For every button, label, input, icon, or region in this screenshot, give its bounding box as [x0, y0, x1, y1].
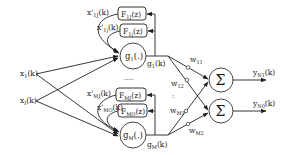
- summer-node-2: Σ: [209, 99, 233, 123]
- summer-node-1: Σ: [209, 68, 233, 92]
- filter-F1j: F1j(z): [120, 24, 147, 38]
- gM-output-label: gM(k): [147, 140, 167, 150]
- g1-output-wiring: [146, 14, 168, 56]
- input-xI: xI(k): [20, 96, 37, 106]
- feedback-label-xMO: x'MO(k): [97, 103, 123, 113]
- neural-network-diagram: x1(k) xI(k) g1(.) F1J(z) F1j(z) x'1J(k) …: [0, 0, 287, 155]
- g1-output-label: g1(k): [147, 59, 165, 69]
- svg-text:gM(.): gM(.): [123, 130, 143, 141]
- svg-text:g1(k): g1(k): [147, 59, 165, 69]
- feedback-label-x1J: x'1J(k): [87, 8, 109, 19]
- weights-ellipsis: :: [172, 91, 175, 100]
- output-yN0: yN0(k): [233, 99, 275, 111]
- svg-text:x1(k): x1(k): [20, 69, 38, 79]
- weight-wM1: wM1: [170, 106, 188, 116]
- svg-text:yN0(k): yN0(k): [252, 99, 275, 109]
- svg-text:wM1: wM1: [170, 106, 185, 116]
- weight-w12: w12: [171, 78, 189, 89]
- hidden-node-gM: gM(.): [120, 122, 146, 148]
- svg-text:w11: w11: [190, 55, 203, 65]
- feedback-curves-bottom: [98, 95, 119, 132]
- weight-w11: w11: [186, 55, 203, 69]
- svg-text:Σ: Σ: [216, 103, 226, 119]
- svg-text:gM(k): gM(k): [147, 140, 167, 150]
- svg-text:g1(.): g1(.): [125, 51, 143, 62]
- filter-F1J: F1J(z): [118, 7, 146, 21]
- filter-FMJ: FMJ(z): [116, 88, 146, 102]
- hidden-node-g1: g1(.): [120, 43, 146, 69]
- output-yN1: yN1(k): [233, 68, 275, 80]
- feedback-curves-top: [98, 14, 120, 53]
- weight-wM2: wM2: [186, 122, 204, 136]
- svg-text:Σ: Σ: [216, 72, 226, 88]
- svg-text:yN1(k): yN1(k): [252, 68, 275, 78]
- gM-output-wiring: [146, 95, 168, 135]
- input-x1: x1(k): [20, 69, 38, 79]
- svg-text:x'MO(k): x'MO(k): [97, 103, 123, 113]
- hidden-nodes-ellipsis: ....: [124, 73, 134, 82]
- svg-text:w12: w12: [171, 79, 184, 89]
- svg-text:x'1J(k): x'1J(k): [87, 8, 109, 19]
- svg-text:xI(k): xI(k): [20, 96, 37, 106]
- svg-text:wM2: wM2: [189, 126, 204, 136]
